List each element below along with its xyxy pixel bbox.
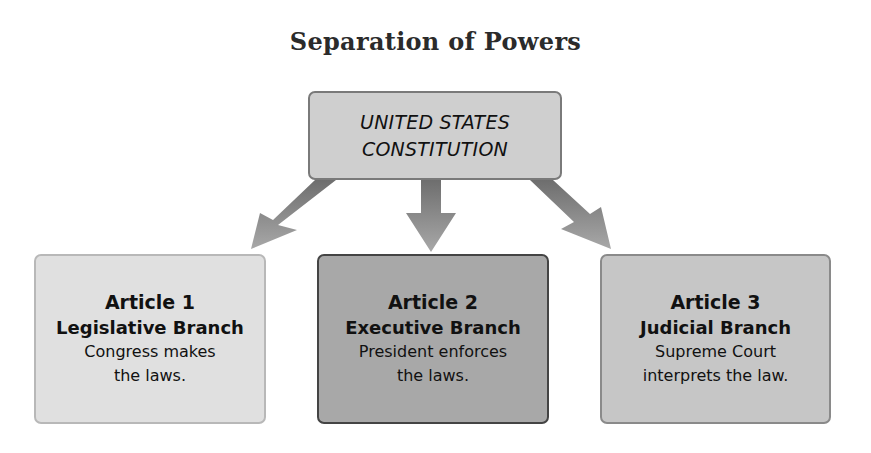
branch-description-1: Supreme Court (655, 340, 776, 364)
arrow-to-executive-icon (406, 180, 456, 252)
constitution-line-2: CONSTITUTION (362, 136, 508, 163)
arrow-to-judicial-icon (530, 180, 611, 249)
constitution-box: UNITED STATES CONSTITUTION (308, 91, 562, 180)
branch-description-1: Congress makes (84, 340, 215, 364)
branch-name: Judicial Branch (640, 315, 791, 340)
constitution-line-1: UNITED STATES (360, 109, 510, 136)
branch-name: Legislative Branch (56, 315, 244, 340)
executive-branch-box: Article 2 Executive Branch President enf… (317, 254, 549, 424)
legislative-branch-box: Article 1 Legislative Branch Congress ma… (34, 254, 266, 424)
branch-name: Executive Branch (345, 315, 521, 340)
article-label: Article 2 (388, 290, 478, 315)
article-label: Article 1 (105, 290, 195, 315)
branch-description-2: interprets the law. (643, 364, 789, 388)
arrow-to-legislative-icon (251, 180, 336, 249)
branch-description-1: President enforces (359, 340, 507, 364)
judicial-branch-box: Article 3 Judicial Branch Supreme Court … (600, 254, 831, 424)
article-label: Article 3 (670, 290, 760, 315)
branch-description-2: the laws. (397, 364, 469, 388)
branch-description-2: the laws. (114, 364, 186, 388)
